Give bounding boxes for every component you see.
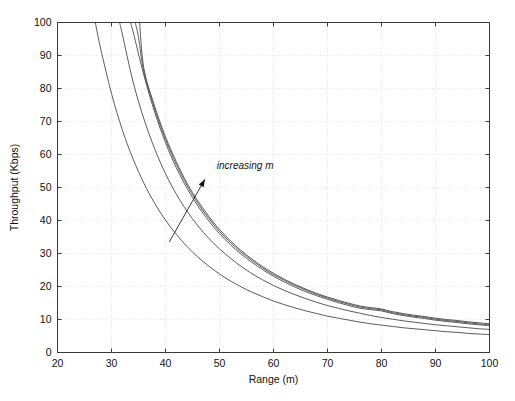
y-tick-label: 0 [46,346,52,358]
x-axis-title: Range (m) [249,373,299,385]
y-tick-label: 90 [40,49,52,61]
x-tick-label: 30 [106,357,118,369]
throughput-vs-range-chart: 2030405060708090100 01020304050607080901… [0,0,515,401]
x-tick-label: 80 [376,357,388,369]
y-tick-label: 40 [40,214,52,226]
x-tick-label: 100 [481,357,499,369]
y-tick-label: 50 [40,181,52,193]
x-tick-label: 60 [268,357,280,369]
figure-background [0,0,515,401]
y-tick-label: 100 [34,16,52,28]
y-tick-label: 10 [40,313,52,325]
y-axis-title: Throughput (Kbps) [8,144,20,232]
x-tick-label: 40 [160,357,172,369]
y-tick-label: 70 [40,115,52,127]
annotation-label: increasing m [217,160,274,171]
x-tick-label: 50 [214,357,226,369]
y-tick-label: 30 [40,247,52,259]
y-tick-label: 20 [40,280,52,292]
x-tick-label: 90 [430,357,442,369]
y-tick-label: 60 [40,148,52,160]
figure-canvas: 2030405060708090100 01020304050607080901… [0,0,515,401]
x-tick-label: 20 [52,357,64,369]
y-tick-label: 80 [40,82,52,94]
x-tick-label: 70 [322,357,334,369]
